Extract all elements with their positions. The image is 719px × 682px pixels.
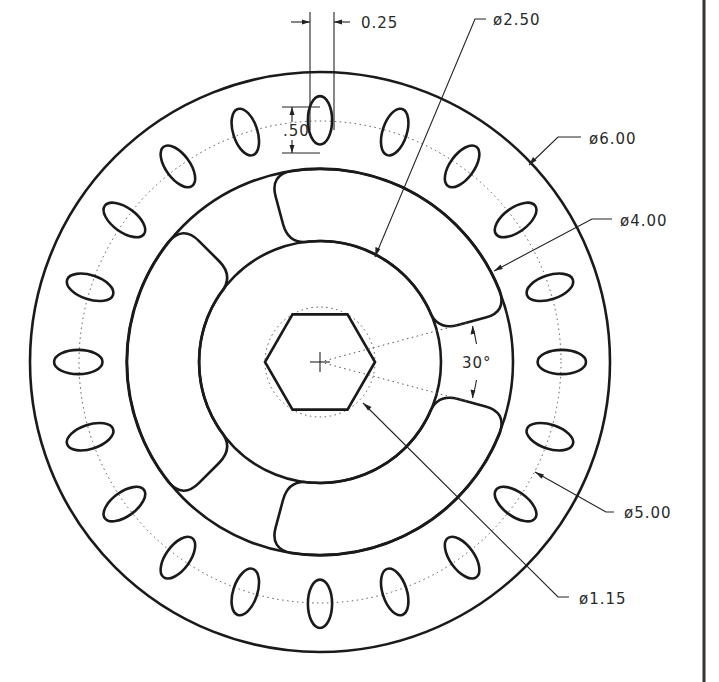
angle-arrowhead-lower — [471, 390, 476, 399]
angle-ref-line-lower — [320, 362, 470, 402]
slot — [376, 105, 414, 159]
slot — [523, 268, 577, 306]
angle-ref-line-upper — [320, 322, 470, 362]
slot — [98, 196, 151, 244]
slot-height-arrowhead-top — [290, 107, 295, 115]
dim-slot-width: 0.25 — [361, 14, 398, 32]
leader-dia-5 — [535, 472, 614, 512]
slot — [308, 96, 332, 144]
slot — [489, 196, 542, 244]
arrowhead-dia-4 — [494, 265, 503, 272]
slot — [63, 418, 117, 456]
slot-height-arrowhead-bottom — [290, 145, 295, 153]
leader-dia-2-5 — [375, 19, 486, 257]
pocket — [127, 233, 228, 491]
slot — [438, 531, 486, 584]
slot — [523, 418, 577, 456]
dim-dia-2-5: ø2.50 — [493, 11, 541, 29]
technical-drawing: 0.25 .50 ø2.50 ø6.00 ø4.00 ø5.00 ø1.15 — [0, 0, 719, 682]
slot — [154, 140, 202, 193]
dim-dia-5: ø5.00 — [624, 504, 672, 522]
slot-width-arrowhead-right — [334, 20, 342, 25]
pocket — [274, 398, 501, 556]
slot — [538, 350, 586, 374]
dim-dia-6: ø6.00 — [589, 130, 637, 148]
slot — [226, 565, 264, 619]
part-geometry — [30, 72, 610, 652]
dimension-annotations: 0.25 .50 ø2.50 ø6.00 ø4.00 ø5.00 ø1.15 — [282, 11, 672, 608]
leader-dia-1-15 — [363, 403, 569, 597]
slot — [438, 140, 486, 193]
slot — [489, 480, 542, 528]
dim-slot-height: .50 — [283, 122, 310, 140]
arrowhead-dia-5 — [535, 472, 544, 479]
angle-arrowhead-upper — [471, 326, 476, 335]
slot — [63, 268, 117, 306]
pocket — [274, 169, 501, 327]
slot — [308, 580, 332, 628]
slot-width-arrowhead-left — [302, 20, 310, 25]
dim-angle-30: 30° — [462, 354, 492, 372]
slot — [54, 350, 102, 374]
slot — [226, 105, 264, 159]
slot — [154, 531, 202, 584]
dim-dia-4: ø4.00 — [620, 212, 668, 230]
leader-dia-6 — [529, 137, 581, 165]
slot — [98, 480, 151, 528]
leader-dia-4 — [494, 219, 612, 271]
dim-dia-1-15: ø1.15 — [579, 590, 627, 608]
slot — [376, 565, 414, 619]
arrowhead-dia-1-15 — [363, 403, 372, 411]
